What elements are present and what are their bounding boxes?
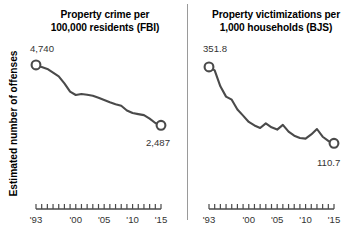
chart-panel-fbi: Property crime per 100,000 residents (FB… <box>0 0 187 244</box>
data-line <box>209 67 334 143</box>
x-axis-tick-label: '93 <box>22 214 50 225</box>
line-plot-bjs <box>187 0 358 244</box>
chart-title-bjs-line2: 1,000 households (BJS) <box>220 22 333 33</box>
x-axis-tick-label: '10 <box>119 214 147 225</box>
chart-panel-bjs: Property victimizations per 1,000 househ… <box>187 0 358 244</box>
x-axis-tick-label: '15 <box>320 214 348 225</box>
start-point-marker <box>32 61 41 70</box>
end-value-label-fbi: 2,487 <box>146 137 170 148</box>
x-axis-tick-label: '00 <box>235 214 263 225</box>
start-value-label-bjs: 351.8 <box>203 43 227 54</box>
chart-title-bjs-line1: Property victimizations per <box>212 9 340 20</box>
x-axis-tick-label: '10 <box>292 214 320 225</box>
chart-title-fbi-line2: 100,000 residents (FBI) <box>51 22 160 33</box>
x-axis-tick-label: '15 <box>147 214 175 225</box>
end-point-marker <box>330 139 339 148</box>
x-axis-tick-label: '05 <box>90 214 118 225</box>
end-point-marker <box>157 121 166 130</box>
chart-title-fbi: Property crime per 100,000 residents (FB… <box>26 8 184 34</box>
crime-trends-figure: Estimated number of offenses Property cr… <box>0 0 358 244</box>
line-plot-fbi <box>0 0 187 244</box>
start-point-marker <box>205 63 214 72</box>
chart-title-fbi-line1: Property crime per <box>61 9 150 20</box>
start-value-label-fbi: 4,740 <box>30 43 54 54</box>
x-axis-tick-label: '05 <box>263 214 291 225</box>
x-axis-tick-label: '00 <box>62 214 90 225</box>
data-line <box>36 65 161 125</box>
x-axis-tick-label: '93 <box>195 214 223 225</box>
chart-title-bjs: Property victimizations per 1,000 househ… <box>196 8 356 34</box>
end-value-label-bjs: 110.7 <box>317 157 340 168</box>
